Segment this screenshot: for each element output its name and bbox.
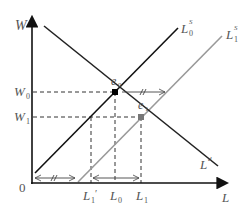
svg-text:L: L — [199, 157, 207, 172]
svg-text:1: 1 — [26, 117, 30, 126]
svg-text:S: S — [189, 18, 193, 26]
svg-text:L: L — [180, 21, 188, 36]
demand-curve-label: L d — [199, 155, 212, 172]
labor-market-diagram: W L 0 W 0 W 1 L 1 ′ L 0 L 1 L S 0 L S 1 … — [0, 0, 250, 213]
svg-text:1: 1 — [234, 35, 238, 44]
svg-text:W: W — [14, 84, 26, 99]
supply-curve-1-label: L S 1 — [225, 24, 238, 44]
supply-curve-0-label: L S 0 — [180, 18, 193, 38]
equilibrium-point-e1 — [138, 114, 144, 120]
y-axis-label: W — [15, 18, 28, 33]
origin-label: 0 — [19, 180, 26, 195]
point-e0-label: e 0 — [111, 74, 122, 89]
svg-text:0: 0 — [118, 81, 122, 89]
svg-text:W: W — [14, 109, 26, 124]
x-tick-l0: L 0 — [109, 188, 122, 205]
origin-to-shift-arrow — [35, 175, 75, 181]
svg-text:d: d — [208, 155, 212, 163]
svg-text:L: L — [109, 188, 117, 203]
svg-text:1: 1 — [145, 105, 149, 113]
svg-text:1: 1 — [144, 196, 148, 205]
svg-text:L: L — [82, 188, 90, 203]
svg-text:0: 0 — [189, 29, 193, 38]
svg-text:L: L — [135, 188, 143, 203]
x-tick-l1-prime: L 1 ′ — [82, 188, 97, 205]
guide-lines — [33, 92, 141, 183]
y-tick-w0: W 0 — [14, 84, 30, 101]
supply-curve-0 — [35, 28, 178, 173]
demand-curve — [44, 26, 218, 166]
y-tick-w1: W 1 — [14, 109, 30, 126]
svg-text:e: e — [138, 98, 144, 112]
svg-text:S: S — [234, 24, 238, 32]
svg-text:L: L — [225, 27, 233, 42]
equilibrium-point-e0 — [112, 89, 118, 95]
svg-text:0: 0 — [26, 92, 30, 101]
svg-text:′: ′ — [95, 188, 97, 199]
x-axis-label: L — [221, 190, 229, 205]
svg-text:0: 0 — [118, 196, 122, 205]
svg-text:e: e — [111, 74, 117, 88]
x-tick-l1: L 1 — [135, 188, 148, 205]
